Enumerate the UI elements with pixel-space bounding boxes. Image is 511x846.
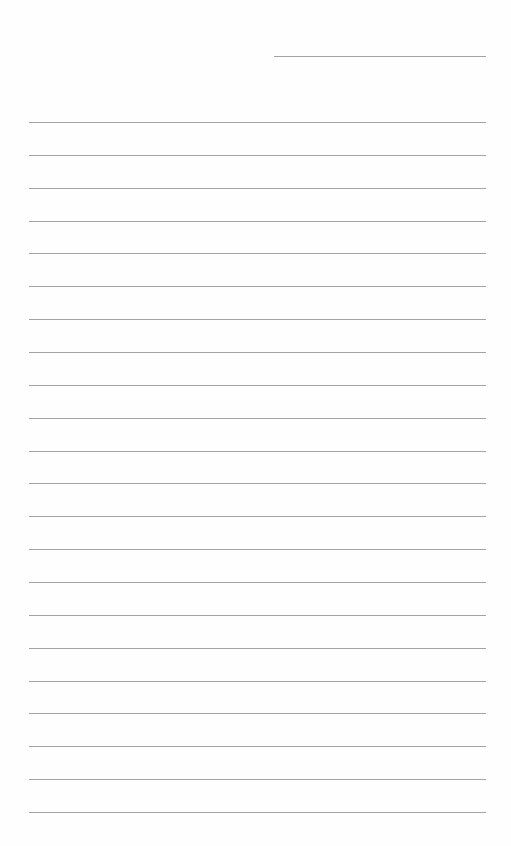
- ruled-line: [29, 582, 486, 583]
- ruled-line: [29, 221, 486, 222]
- ruled-line: [29, 319, 486, 320]
- ruled-line: [29, 155, 486, 156]
- ruled-line: [29, 516, 486, 517]
- ruled-line: [29, 352, 486, 353]
- ruled-line: [29, 122, 486, 123]
- ruled-line: [29, 385, 486, 386]
- date-line: [274, 56, 486, 57]
- lined-paper-page: [0, 0, 511, 846]
- ruled-line: [29, 713, 486, 714]
- ruled-line: [29, 779, 486, 780]
- ruled-line: [29, 746, 486, 747]
- ruled-line: [29, 812, 486, 813]
- ruled-line: [29, 681, 486, 682]
- ruled-line: [29, 418, 486, 419]
- ruled-line: [29, 188, 486, 189]
- ruled-line: [29, 253, 486, 254]
- ruled-line: [29, 549, 486, 550]
- ruled-line: [29, 286, 486, 287]
- ruled-line: [29, 648, 486, 649]
- ruled-line: [29, 615, 486, 616]
- ruled-line: [29, 483, 486, 484]
- ruled-line: [29, 451, 486, 452]
